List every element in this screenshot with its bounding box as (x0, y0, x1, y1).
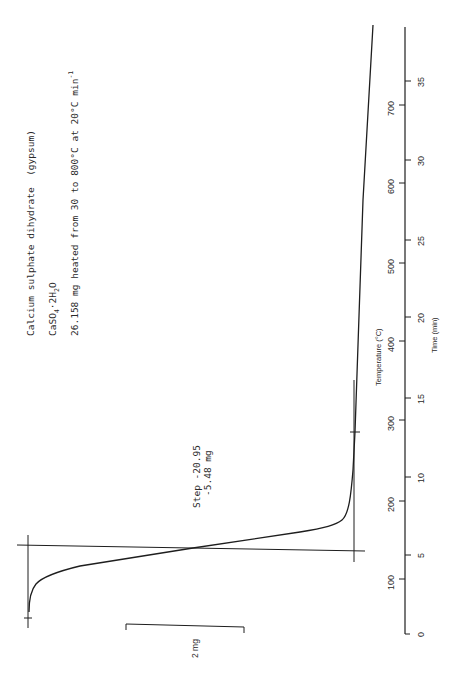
temp-label-200: 200 (386, 497, 396, 512)
conditions-main: 26.158 mg heated from 30 to 800°C at 20°… (69, 79, 80, 336)
formula-end: O (47, 282, 58, 288)
time-tick-labels: 0 5 10 15 20 25 30 35 (416, 77, 426, 637)
temperature-ticks (399, 105, 405, 579)
time-label-10: 10 (416, 473, 426, 483)
chemical-formula: CaSO4·2H2O (47, 282, 61, 336)
time-label-5: 5 (416, 553, 426, 558)
conditions-sup: -1 (67, 71, 75, 79)
time-label-35: 35 (416, 77, 426, 87)
formula-base: CaSO (47, 313, 58, 336)
tg-curve (29, 25, 373, 612)
time-label-15: 15 (416, 394, 426, 404)
tga-chart: Calcium sulphate dihydrate (gypsum) CaSO… (0, 0, 462, 674)
step-percent-label: Step -20.95 (191, 445, 202, 508)
step-mass-label: -5.48 mg (202, 450, 213, 496)
temp-label-700: 700 (386, 101, 396, 116)
time-label-30: 30 (416, 156, 426, 166)
scale-bar-label: 2 mg (190, 639, 200, 658)
formula-mid: ·2H (47, 292, 58, 309)
temperature-tick-labels: 100 200 300 400 500 600 700 (386, 101, 396, 590)
time-label-0: 0 (416, 632, 426, 637)
time-label-20: 20 (416, 313, 426, 323)
temp-label-600: 600 (386, 179, 396, 194)
heating-conditions: 26.158 mg heated from 30 to 800°C at 20°… (67, 71, 80, 336)
temperature-axis-label: Temperature (°C) (374, 328, 383, 386)
time-axis-label: Time (min) (430, 317, 439, 353)
temp-label-100: 100 (386, 575, 396, 590)
temp-label-400: 400 (386, 337, 396, 352)
temp-label-500: 500 (386, 259, 396, 274)
time-ticks (405, 81, 411, 555)
temp-label-300: 300 (386, 416, 396, 431)
scale-bar (126, 624, 244, 633)
chart-title: Calcium sulphate dihydrate (gypsum) (25, 130, 36, 336)
time-label-25: 25 (416, 236, 426, 246)
